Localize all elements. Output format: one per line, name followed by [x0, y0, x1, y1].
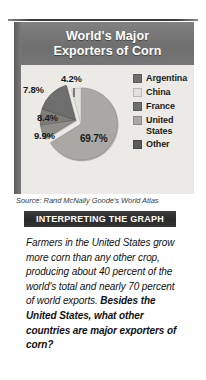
legend-label-argentina: Argentina: [146, 73, 187, 84]
legend-swatch-argentina: [133, 74, 142, 83]
legend-item-other: Other: [133, 139, 194, 150]
legend-label-france: France: [146, 101, 175, 112]
chart-legend: Argentina China France United States Oth…: [133, 73, 194, 153]
pie-label-france: 7.8%: [23, 84, 44, 95]
top-divider-rule: [8, 19, 198, 21]
pie-label-china: 8.4%: [37, 112, 58, 123]
pie-label-other: 4.2%: [61, 73, 82, 84]
chart-title-line-2: Exporters of Corn: [54, 44, 162, 59]
panel-left-accent-bar: [14, 22, 21, 194]
legend-swatch-united-states: [133, 116, 142, 125]
pie-label-united-states: 69.7%: [80, 133, 107, 144]
pie-graphic: 69.7% 9.9% 8.4% 7.8% 4.2%: [21, 71, 133, 171]
chart-body: 69.7% 9.9% 8.4% 7.8% 4.2% Argentina Chin…: [21, 65, 194, 194]
legend-swatch-france: [133, 102, 142, 111]
interpreting-the-graph-header: INTERPRETING THE GRAPH: [24, 211, 176, 227]
pie-chart: 69.7% 9.9% 8.4% 7.8% 4.2%: [21, 71, 133, 171]
legend-swatch-china: [133, 88, 142, 97]
legend-label-united-states: United States: [146, 115, 192, 136]
chart-title-line-1: World's Major: [66, 29, 149, 44]
legend-item-france: France: [133, 101, 194, 112]
interpreting-the-graph-label: INTERPRETING THE GRAPH: [36, 214, 164, 224]
chart-source-note: Source: Rand McNally Goode's World Atlas: [16, 196, 196, 205]
leader-line-other: [73, 88, 75, 97]
legend-item-united-states: United States: [133, 115, 194, 136]
chart-title-bar: World's Major Exporters of Corn: [21, 22, 194, 65]
legend-label-china: China: [146, 87, 171, 98]
legend-item-argentina: Argentina: [133, 73, 194, 84]
interpreting-the-graph-body: Farmers in the United States grow more c…: [26, 236, 184, 353]
legend-item-china: China: [133, 87, 194, 98]
legend-label-other: Other: [146, 139, 170, 150]
legend-swatch-other: [133, 140, 142, 149]
chart-panel: World's Major Exporters of Corn: [14, 22, 194, 194]
pie-label-argentina: 9.9%: [34, 130, 55, 141]
